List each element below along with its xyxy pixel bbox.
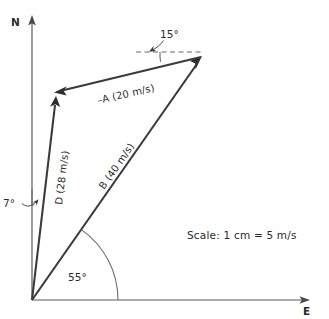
axis-group bbox=[28, 15, 310, 304]
vector-minus-a-label: –A (20 m/s) bbox=[96, 82, 156, 106]
angle-55-group: 55° bbox=[68, 230, 118, 300]
angle-15-group: 15° bbox=[149, 28, 179, 62]
angle-15-label: 15° bbox=[160, 28, 179, 40]
vector-diagram: N E 15° 7° 55° –A (20 m/s) D ( bbox=[0, 0, 329, 319]
angle-15-arc bbox=[160, 52, 161, 62]
vector-minus-a-line bbox=[62, 57, 201, 91]
angle-7-group: 7° bbox=[3, 189, 39, 209]
east-axis-label: E bbox=[303, 305, 310, 317]
angle-55-label: 55° bbox=[68, 271, 87, 283]
scale-annotation: Scale: 1 cm = 5 m/s bbox=[187, 229, 297, 241]
vector-d-label: D (28 m/s) bbox=[53, 150, 71, 205]
vector-b-label: B (40 m/s) bbox=[97, 141, 137, 191]
north-axis-label: N bbox=[11, 16, 20, 28]
angle-55-arc bbox=[81, 230, 118, 300]
angle-15-leader-line bbox=[153, 41, 164, 51]
angle-7-arc bbox=[32, 189, 34, 205]
angle-7-label: 7° bbox=[3, 197, 15, 209]
